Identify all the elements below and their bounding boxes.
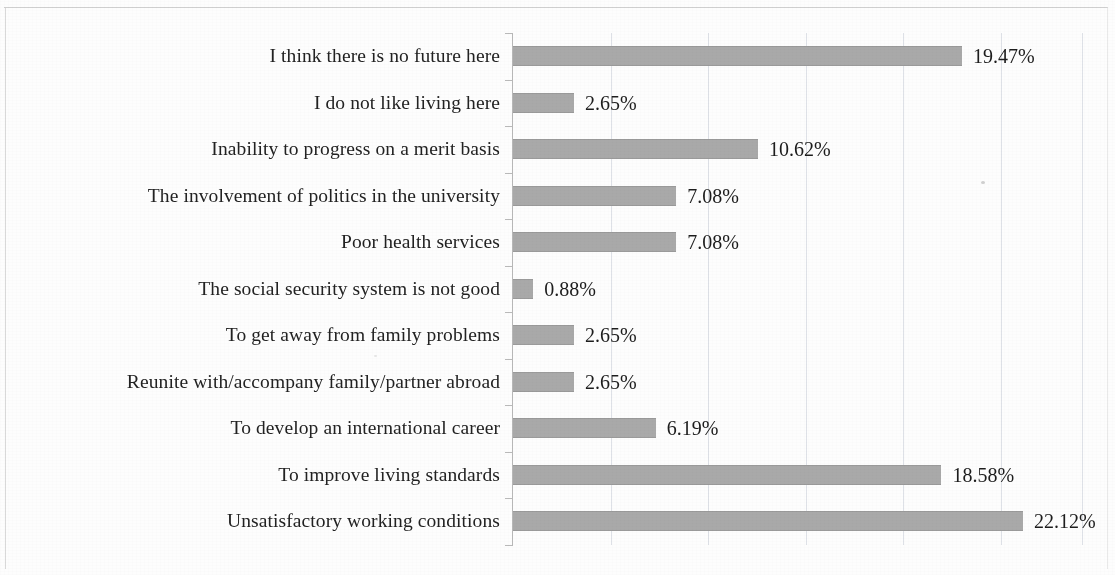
value-label: 2.65% bbox=[574, 325, 637, 345]
chart-row: To improve living standards18.58% bbox=[0, 452, 1115, 499]
bar-fill bbox=[513, 93, 574, 113]
value-label: 7.08% bbox=[676, 232, 739, 252]
category-label: Poor health services bbox=[0, 219, 500, 266]
chart-row: I think there is no future here19.47% bbox=[0, 33, 1115, 80]
value-label: 18.58% bbox=[941, 465, 1014, 485]
value-label: 19.47% bbox=[962, 46, 1035, 66]
bar-fill bbox=[513, 139, 758, 159]
chart-row: To get away from family problems2.65% bbox=[0, 312, 1115, 359]
chart-row: The social security system is not good0.… bbox=[0, 266, 1115, 313]
bar-fill bbox=[513, 232, 676, 252]
chart-row: To develop an international career6.19% bbox=[0, 405, 1115, 452]
category-label: Reunite with/accompany family/partner ab… bbox=[0, 359, 500, 406]
value-label: 22.12% bbox=[1023, 511, 1096, 531]
value-label: 2.65% bbox=[574, 93, 637, 113]
bar-fill bbox=[513, 325, 574, 345]
bar[interactable] bbox=[513, 279, 533, 299]
bar[interactable] bbox=[513, 186, 676, 206]
scan-speck bbox=[374, 355, 377, 357]
horizontal-bar-chart: I think there is no future here19.47%I d… bbox=[0, 0, 1115, 575]
category-label: Inability to progress on a merit basis bbox=[0, 126, 500, 173]
category-label: To develop an international career bbox=[0, 405, 500, 452]
value-label: 6.19% bbox=[656, 418, 719, 438]
bar-fill bbox=[513, 511, 1023, 531]
bar[interactable] bbox=[513, 418, 656, 438]
bar-fill bbox=[513, 418, 656, 438]
category-label: The social security system is not good bbox=[0, 266, 500, 313]
value-label: 10.62% bbox=[758, 139, 831, 159]
bar[interactable] bbox=[513, 372, 574, 392]
chart-row: Inability to progress on a merit basis10… bbox=[0, 126, 1115, 173]
bar-fill bbox=[513, 279, 533, 299]
scan-speck bbox=[981, 181, 985, 184]
chart-row: Reunite with/accompany family/partner ab… bbox=[0, 359, 1115, 406]
category-label: I do not like living here bbox=[0, 80, 500, 127]
bar[interactable] bbox=[513, 325, 574, 345]
category-label: To get away from family problems bbox=[0, 312, 500, 359]
chart-row: I do not like living here2.65% bbox=[0, 80, 1115, 127]
axis-tick bbox=[505, 545, 513, 546]
value-label: 0.88% bbox=[533, 279, 596, 299]
bar[interactable] bbox=[513, 465, 941, 485]
value-label: 2.65% bbox=[574, 372, 637, 392]
bar-fill bbox=[513, 465, 941, 485]
scanned-page: I think there is no future here19.47%I d… bbox=[0, 0, 1115, 575]
category-label: I think there is no future here bbox=[0, 33, 500, 80]
chart-row: Poor health services7.08% bbox=[0, 219, 1115, 266]
category-label: The involvement of politics in the unive… bbox=[0, 173, 500, 220]
value-label: 7.08% bbox=[676, 186, 739, 206]
bar-fill bbox=[513, 186, 676, 206]
bar[interactable] bbox=[513, 232, 676, 252]
bar[interactable] bbox=[513, 46, 962, 66]
bar[interactable] bbox=[513, 139, 758, 159]
category-label: Unsatisfactory working conditions bbox=[0, 498, 500, 545]
bar[interactable] bbox=[513, 511, 1023, 531]
category-label: To improve living standards bbox=[0, 452, 500, 499]
bar-fill bbox=[513, 46, 962, 66]
bar[interactable] bbox=[513, 93, 574, 113]
bar-fill bbox=[513, 372, 574, 392]
chart-row: Unsatisfactory working conditions22.12% bbox=[0, 498, 1115, 545]
chart-row: The involvement of politics in the unive… bbox=[0, 173, 1115, 220]
